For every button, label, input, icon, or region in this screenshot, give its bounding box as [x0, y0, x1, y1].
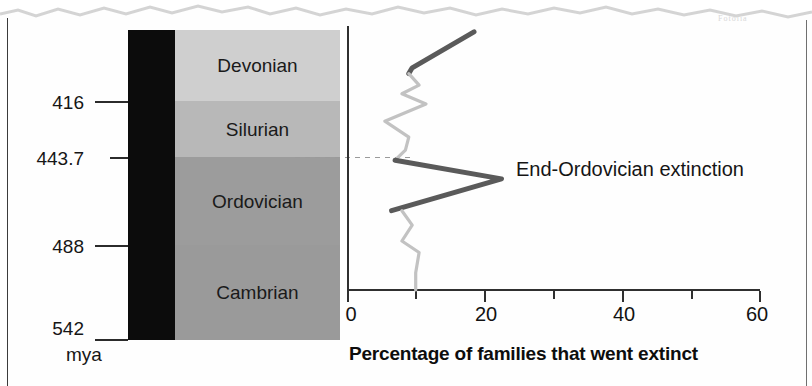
period-label-cambrian: Cambrian — [216, 283, 298, 302]
time-scale-black-bar — [128, 30, 175, 340]
ytick-mark-443 — [110, 157, 128, 159]
ytick-mark-416 — [95, 101, 128, 103]
xtick-label-0: 0 — [345, 303, 356, 326]
period-label-devonian: Devonian — [217, 56, 297, 75]
ytick-mark-542 — [95, 339, 128, 341]
xtick-label-40: 40 — [613, 303, 635, 326]
xtick-label-60: 60 — [746, 303, 768, 326]
period-band-silurian: Silurian — [175, 101, 340, 157]
curve-series-2 — [392, 160, 502, 211]
watermark-text: Fotolia — [718, 14, 748, 23]
period-band-cambrian: Cambrian — [175, 245, 340, 340]
period-label-ordovician: Ordovician — [212, 192, 303, 211]
curve-series-3 — [402, 211, 419, 290]
ytick-mark-488 — [95, 245, 128, 247]
period-band-devonian: Devonian — [175, 30, 340, 101]
curve-series-1 — [385, 74, 426, 161]
period-label-silurian: Silurian — [226, 120, 289, 139]
geologic-time-scale: Devonian Silurian Ordovician Cambrian — [128, 30, 340, 340]
ytick-label-488: 488 — [52, 236, 84, 258]
ytick-label-443: 443.7 — [36, 148, 84, 170]
annotation-end-ordovician: End-Ordovician extinction — [516, 158, 744, 181]
time-axis-labels: 416 443.7 488 542 mya — [0, 0, 128, 386]
xtick-label-20: 20 — [475, 303, 497, 326]
ytick-label-542: 542 — [52, 318, 84, 340]
x-axis-title: Percentage of families that went extinct — [349, 343, 698, 365]
curve-series-0 — [409, 32, 474, 74]
period-band-ordovician: Ordovician — [175, 157, 340, 245]
ytick-label-416: 416 — [52, 92, 84, 114]
time-unit-label: mya — [66, 344, 102, 366]
figure-right-border — [806, 20, 807, 386]
extinction-figure: Fotolia 416 443.7 488 542 mya Devonian S… — [0, 0, 812, 386]
